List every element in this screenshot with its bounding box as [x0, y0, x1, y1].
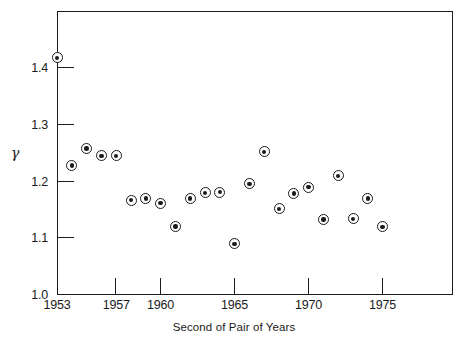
- y-tick-label: 1.3: [8, 119, 48, 132]
- scatter-plot-figure: 1.01.11.21.31.4 195319571960196519701975…: [0, 0, 468, 348]
- y-tick-mark: [57, 67, 74, 68]
- y-tick-label: 1.4: [8, 62, 48, 75]
- x-tick-mark: [308, 278, 309, 295]
- data-point: [185, 193, 196, 204]
- data-point: [155, 198, 166, 209]
- y-tick-mark: [57, 181, 74, 182]
- data-point: [126, 195, 137, 206]
- data-point: [200, 187, 211, 198]
- x-tick-label: 1975: [360, 299, 406, 312]
- data-point: [348, 213, 359, 224]
- x-tick-mark: [234, 278, 235, 295]
- data-point: [318, 214, 329, 225]
- y-axis-label: γ: [11, 146, 19, 160]
- x-tick-label: 1957: [93, 299, 139, 312]
- x-tick-mark: [115, 278, 116, 295]
- y-tick-label: 1.1: [8, 232, 48, 245]
- x-tick-label: 1960: [138, 299, 184, 312]
- y-tick-label: 1.2: [8, 176, 48, 189]
- data-point: [333, 170, 344, 181]
- data-point: [274, 203, 285, 214]
- x-tick-label: 1953: [34, 299, 80, 312]
- x-tick-mark: [160, 278, 161, 295]
- x-axis-label: Second of Pair of Years: [0, 322, 468, 334]
- y-tick-mark: [57, 124, 74, 125]
- y-tick-mark: [57, 237, 74, 238]
- data-point: [303, 182, 314, 193]
- x-tick-mark: [382, 278, 383, 295]
- x-tick-label: 1965: [212, 299, 258, 312]
- data-point: [170, 221, 181, 232]
- x-tick-label: 1970: [286, 299, 332, 312]
- data-point: [52, 52, 63, 63]
